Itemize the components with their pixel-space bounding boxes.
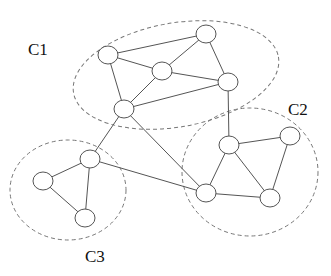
community-graph-diagram: C1C2C3 — [0, 0, 331, 276]
edge-n10-n8 — [90, 159, 206, 193]
graph-node-n5 — [114, 100, 134, 118]
graph-node-n11 — [33, 172, 53, 190]
graph-node-n2 — [196, 25, 216, 43]
graph-node-n12 — [75, 209, 95, 227]
cluster-c1-boundary — [65, 6, 288, 145]
graph-node-n6 — [219, 136, 239, 154]
cluster-label-c1: C1 — [28, 40, 48, 59]
edge-n7-n9 — [270, 136, 290, 198]
graph-node-n8 — [196, 184, 216, 202]
graph-edges — [43, 34, 290, 218]
graph-node-n1 — [98, 46, 118, 64]
graph-node-n3 — [152, 62, 172, 80]
graph-node-n10 — [80, 150, 100, 168]
cluster-c3-boundary — [10, 140, 126, 240]
edge-n6-n9 — [229, 145, 270, 198]
cluster-label-c3: C3 — [85, 247, 105, 266]
graph-node-n7 — [280, 127, 300, 145]
graph-nodes — [33, 25, 300, 227]
graph-node-n4 — [218, 73, 238, 91]
cluster-label-c2: C2 — [288, 100, 308, 119]
edge-n5-n8 — [124, 109, 206, 193]
edge-n5-n4 — [124, 82, 228, 109]
graph-node-n9 — [260, 189, 280, 207]
